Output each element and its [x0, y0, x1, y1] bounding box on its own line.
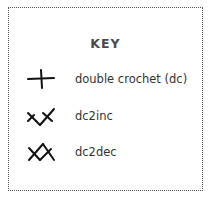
key-legend-box: KEY double crochet (dc) dc2inc dc2dec — [8, 7, 203, 191]
legend-label: dc2inc — [75, 109, 113, 123]
legend-label: double crochet (dc) — [75, 72, 187, 86]
dc2inc-symbol-icon — [26, 105, 56, 127]
legend-label: dc2dec — [75, 145, 117, 159]
dc2dec-symbol-icon — [26, 141, 56, 163]
legend-item-double-crochet: double crochet (dc) — [26, 68, 187, 90]
double-crochet-symbol-icon — [26, 68, 56, 90]
key-title: KEY — [9, 36, 202, 51]
legend-item-dc2inc: dc2inc — [26, 105, 113, 127]
legend-item-dc2dec: dc2dec — [26, 141, 117, 163]
